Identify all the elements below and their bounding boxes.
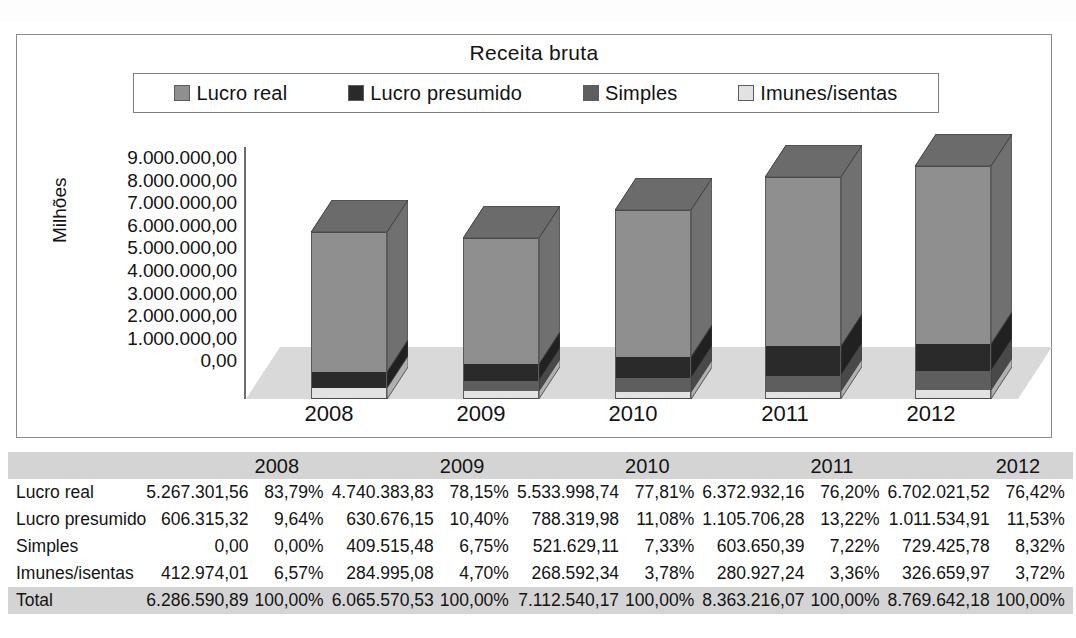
- legend-label: Imunes/isentas: [760, 82, 897, 105]
- table-cell-percent: 76,20%: [810, 479, 887, 506]
- table-cell-value: 1.105.706,28: [702, 506, 810, 533]
- table-header-blank: [332, 452, 440, 479]
- table-cell-percent: 100,00%: [255, 587, 332, 614]
- bar-group-2011[interactable]: [744, 125, 854, 415]
- table-cell-value: 1.011.534,91: [887, 506, 995, 533]
- chart-panel: Receita bruta Lucro real Lucro presumido…: [16, 34, 1052, 438]
- y-tick-label: 0,00: [75, 350, 237, 373]
- table-cell-value: 788.319,98: [517, 506, 625, 533]
- bar-segment[interactable]: [311, 372, 387, 388]
- table-cell-value: 606.315,32: [146, 506, 254, 533]
- x-tick-label-2009: 2009: [426, 401, 536, 427]
- table-row: Lucro presumido606.315,329,64%630.676,15…: [8, 506, 1073, 533]
- table-cell-percent: 7,33%: [625, 533, 702, 560]
- y-tick-label: 1.000.000,00: [75, 328, 237, 351]
- bar-group-2008[interactable]: [290, 125, 400, 415]
- legend-label: Lucro real: [196, 82, 287, 105]
- y-tick-label: 8.000.000,00: [75, 170, 237, 193]
- bar-side-face: [991, 358, 1012, 399]
- table-cell-percent: 4,70%: [440, 560, 517, 587]
- bar-segment[interactable]: [463, 391, 539, 399]
- table-cell-value: 729.425,78: [887, 533, 995, 560]
- legend-item-lucro-real[interactable]: Lucro real: [174, 82, 287, 105]
- bar-side-face: [387, 356, 408, 399]
- legend-label: Lucro presumido: [370, 82, 522, 105]
- table-header: 2008 2009 2010 2011 2012: [8, 452, 1073, 479]
- bar-segment[interactable]: [765, 346, 841, 375]
- table-cell-percent: 11,08%: [625, 506, 702, 533]
- y-tick-label: 5.000.000,00: [75, 237, 237, 260]
- bar-segment[interactable]: [311, 388, 387, 399]
- y-axis-title: Milhões: [49, 178, 71, 243]
- table-cell-percent: 83,79%: [255, 479, 332, 506]
- table-cell-percent: 9,64%: [255, 506, 332, 533]
- x-tick-label-2012: 2012: [876, 401, 986, 427]
- table-cell-value: 521.629,11: [517, 533, 625, 560]
- table-cell-percent: 100,00%: [440, 587, 517, 614]
- table-cell-percent: 6,75%: [440, 533, 517, 560]
- legend-swatch-icon: [583, 85, 599, 101]
- table-header-year-2012: 2012: [996, 452, 1073, 479]
- table-row-label: Lucro presumido: [8, 506, 146, 533]
- table-header-year-2011: 2011: [810, 452, 887, 479]
- bar-segment[interactable]: [615, 357, 691, 378]
- bar-segment[interactable]: [311, 232, 387, 372]
- bar-group-2009[interactable]: [442, 125, 552, 415]
- bar-segment[interactable]: [915, 166, 991, 344]
- table-row: Imunes/isentas412.974,016,57%284.995,084…: [8, 560, 1073, 587]
- table-row-label: Total: [8, 587, 146, 614]
- table-cell-value: 268.592,34: [517, 560, 625, 587]
- bar-side-face: [691, 360, 712, 399]
- legend-label: Simples: [605, 82, 678, 105]
- table-cell-percent: 100,00%: [625, 587, 702, 614]
- table-cell-value: 5.267.301,56: [146, 479, 254, 506]
- table-header-blank: [146, 452, 254, 479]
- table-row-label: Imunes/isentas: [8, 560, 146, 587]
- x-tick-label-2010: 2010: [578, 401, 688, 427]
- table-cell-percent: 3,78%: [625, 560, 702, 587]
- table-header-year-2008: 2008: [255, 452, 332, 479]
- bar-series-container: [246, 125, 1052, 415]
- table-cell-percent: 6,57%: [255, 560, 332, 587]
- bar-segment[interactable]: [915, 390, 991, 399]
- table-header-blank: [887, 452, 995, 479]
- bar-group-2010[interactable]: [594, 125, 704, 415]
- table-cell-value: 603.650,39: [702, 533, 810, 560]
- table-cell-value: 4.740.383,83: [332, 479, 440, 506]
- table-cell-value: 326.659,97: [887, 560, 995, 587]
- table-cell-value: 7.112.540,17: [517, 587, 625, 614]
- bar-segment[interactable]: [615, 210, 691, 357]
- table-total-row: Total6.286.590,89100,00%6.065.570,53100,…: [8, 587, 1073, 614]
- bar-segment[interactable]: [615, 392, 691, 399]
- legend-item-simples[interactable]: Simples: [583, 82, 678, 105]
- table-cell-value: 8.769.642,18: [887, 587, 995, 614]
- x-axis-labels: 2008 2009 2010 2011 2012: [246, 401, 1052, 437]
- legend-item-imunes-isentas[interactable]: Imunes/isentas: [738, 82, 897, 105]
- bar-segment[interactable]: [615, 378, 691, 392]
- table-cell-value: 8.363.216,07: [702, 587, 810, 614]
- bar-segment[interactable]: [915, 371, 991, 390]
- bar-segment[interactable]: [765, 392, 841, 399]
- chart-title: Receita bruta: [17, 41, 1051, 65]
- bar-segment[interactable]: [463, 364, 539, 381]
- bar-segment[interactable]: [765, 376, 841, 392]
- x-tick-label-2011: 2011: [730, 401, 840, 427]
- bar-segment[interactable]: [765, 177, 841, 346]
- legend-item-lucro-presumido[interactable]: Lucro presumido: [348, 82, 522, 105]
- bar-segment[interactable]: [915, 344, 991, 371]
- table-header-blank: [702, 452, 810, 479]
- table-cell-percent: 3,36%: [810, 560, 887, 587]
- table-cell-value: 412.974,01: [146, 560, 254, 587]
- table-row: Simples0,000,00%409.515,486,75%521.629,1…: [8, 533, 1073, 560]
- table-cell-percent: 76,42%: [996, 479, 1073, 506]
- table-cell-percent: 10,40%: [440, 506, 517, 533]
- table-cell-value: 6.286.590,89: [146, 587, 254, 614]
- bar-segment[interactable]: [463, 381, 539, 392]
- table-header-year-2009: 2009: [440, 452, 517, 479]
- bar-segment[interactable]: [463, 238, 539, 364]
- y-axis-tick-labels: 9.000.000,00 8.000.000,00 7.000.000,00 6…: [75, 147, 237, 373]
- bar-group-2012[interactable]: [894, 125, 1004, 415]
- legend-swatch-icon: [738, 85, 754, 101]
- y-tick-label: 7.000.000,00: [75, 192, 237, 215]
- table-cell-percent: 3,72%: [996, 560, 1073, 587]
